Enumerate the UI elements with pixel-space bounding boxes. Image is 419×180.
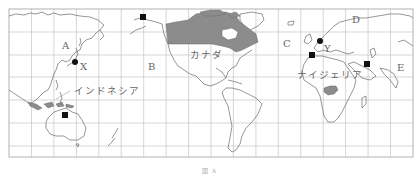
square-marker-alaska <box>140 14 146 20</box>
canada-highlight <box>166 12 258 52</box>
square-marker-iberia <box>309 52 315 58</box>
world-map <box>0 0 419 180</box>
label-e: E <box>397 63 404 73</box>
label-nigeria: ナイジェリア <box>297 70 363 80</box>
label-y: Y <box>324 44 331 54</box>
label-indonesia: インドネシア <box>74 86 140 96</box>
label-x: X <box>80 62 87 72</box>
square-marker-middle-east <box>364 61 370 67</box>
label-d: D <box>352 15 360 25</box>
label-canada: カナダ <box>190 50 223 60</box>
square-marker-australia <box>62 112 68 118</box>
label-c: C <box>283 39 291 49</box>
indonesia-leader-line <box>56 91 70 99</box>
nigeria-highlight <box>324 86 338 95</box>
label-a: A <box>62 41 69 51</box>
figure-caption: 図 A <box>0 166 419 175</box>
label-b: B <box>148 62 155 72</box>
dot-marker-y-europe <box>317 38 323 44</box>
dot-marker-x-japan <box>72 59 78 65</box>
